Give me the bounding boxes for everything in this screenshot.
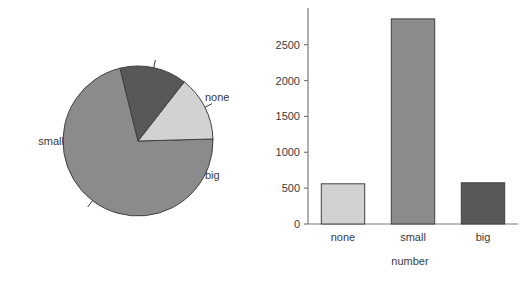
bar-chart-svg: 05001000150020002500 nonesmallbig number [260, 0, 521, 286]
bar-none [321, 184, 364, 224]
y-axis-tick-label: 0 [294, 218, 300, 230]
pie-leader-line-big [154, 60, 156, 68]
bar-big [461, 183, 504, 224]
pie-leader-line-none [205, 104, 212, 108]
pie-chart-svg: none small big [0, 0, 260, 286]
x-axis-title: number [391, 255, 429, 267]
pie-label-none: none [205, 91, 229, 103]
y-axis-tick-label: 1000 [276, 146, 300, 158]
bar-series [321, 19, 504, 224]
y-axis-tick-label: 500 [282, 182, 300, 194]
y-axis-ticks: 05001000150020002500 [276, 39, 308, 230]
x-axis-label-none: none [331, 231, 355, 243]
x-axis-label-small: small [400, 231, 426, 243]
bar-chart-panel: 05001000150020002500 nonesmallbig number [260, 0, 521, 286]
pie-chart-panel: none small big [0, 0, 260, 286]
x-axis-label-big: big [476, 231, 491, 243]
bar-small [391, 19, 434, 224]
figure-root: none small big 05001000150020002500 none… [0, 0, 521, 286]
pie-label-small: small [38, 135, 64, 147]
y-axis-tick-label: 1500 [276, 110, 300, 122]
y-axis-tick-label: 2500 [276, 39, 300, 51]
pie-label-big: big [205, 169, 220, 181]
y-axis-tick-label: 2000 [276, 75, 300, 87]
pie-leader-line-small [88, 201, 93, 207]
x-axis-category-labels: nonesmallbig [331, 231, 491, 243]
